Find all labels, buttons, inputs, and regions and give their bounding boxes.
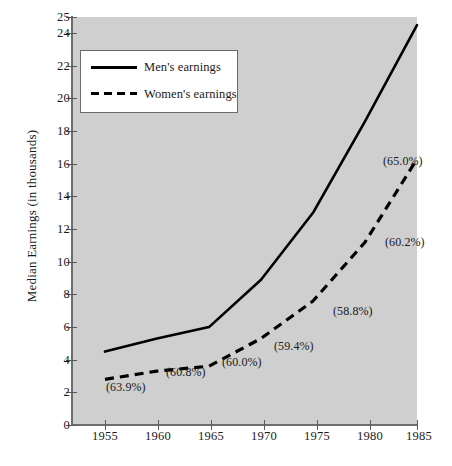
- annotation-1985: (65.0%): [383, 155, 423, 167]
- x-tick-label-1965: 1965: [181, 430, 241, 443]
- x-tick-label-1970: 1970: [234, 430, 294, 443]
- annotation-1970: (59.4%): [274, 340, 314, 352]
- annotation-1975: (58.8%): [333, 305, 373, 317]
- y-axis-title: Median Earnings (in thousands): [24, 66, 40, 366]
- legend-label-womens-earnings: Women's earnings: [144, 88, 237, 101]
- x-tick-label-1985: 1985: [389, 430, 449, 443]
- legend-swatch-dashed-line-icon: [91, 88, 137, 100]
- annotation-1965: (60.0%): [222, 356, 262, 368]
- x-tick-label-1960: 1960: [128, 430, 188, 443]
- y-tick-label-25: 25: [30, 11, 70, 24]
- y-axis-line: [71, 16, 73, 426]
- y-tick-label-0: 0: [30, 419, 70, 432]
- x-tick-label-1955: 1955: [75, 430, 135, 443]
- annotation-1960: (60.8%): [166, 366, 206, 378]
- x-axis-line: [71, 424, 418, 426]
- legend-swatch-solid-line-icon: [91, 61, 137, 73]
- legend: Men's earnings Women's earnings: [80, 50, 238, 113]
- annotation-1955: (63.9%): [106, 381, 146, 393]
- x-tick-label-1975: 1975: [287, 430, 347, 443]
- legend-label-mens-earnings: Men's earnings: [144, 61, 221, 74]
- legend-item-womens-earnings: Women's earnings: [91, 84, 237, 104]
- y-tick-label-24: 24: [30, 27, 70, 40]
- y-tick-label-2: 2: [30, 386, 70, 399]
- line-chart: 25 24 22 20 18 16 14 12 10 8 6 4 2 0 195…: [0, 0, 452, 466]
- annotation-1980: (60.2%): [385, 236, 425, 248]
- legend-item-mens-earnings: Men's earnings: [91, 57, 221, 77]
